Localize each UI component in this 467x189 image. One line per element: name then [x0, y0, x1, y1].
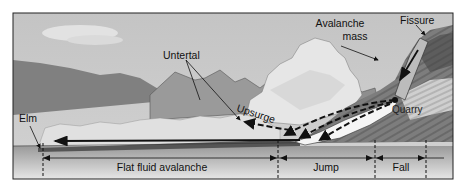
label-avalanche-mass-1: Avalanche [316, 17, 365, 29]
label-quarry: Quarry [392, 104, 423, 115]
label-avalanche-mass-2: mass [342, 30, 367, 42]
flow-arrow [55, 140, 300, 141]
segment-jump: Jump [313, 161, 339, 173]
elm-landslide-diagram: Untertal Avalanche mass Fissure Upsurge … [0, 0, 467, 189]
segment-fall: Fall [393, 161, 410, 173]
label-untertal: Untertal [163, 49, 200, 61]
ground [13, 146, 453, 180]
segment-flat-fluid-avalanche: Flat fluid avalanche [117, 161, 208, 173]
label-elm: Elm [19, 112, 37, 124]
label-fissure: Fissure [400, 14, 435, 26]
